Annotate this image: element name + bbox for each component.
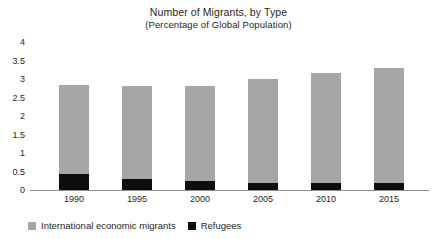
- legend-label: Refugees: [201, 220, 242, 231]
- chart-subtitle: (Percentage of Global Population): [0, 19, 437, 31]
- bar-segment-economic-migrants: [311, 73, 341, 182]
- bar-segment-economic-migrants: [59, 85, 89, 175]
- bar-stack: [374, 68, 404, 190]
- x-tick-label: 1990: [44, 194, 104, 204]
- legend-swatch-refugees-icon: [188, 222, 196, 230]
- legend-label: International economic migrants: [41, 220, 176, 231]
- y-tick-label: 2.5: [0, 93, 25, 103]
- x-tick-label: 2010: [296, 194, 356, 204]
- legend-swatch-economic-icon: [28, 222, 36, 230]
- bar-segment-refugees: [185, 181, 215, 190]
- bar-stack: [248, 79, 278, 190]
- bar-segment-refugees: [59, 174, 89, 190]
- y-tick-label: 0.5: [0, 167, 25, 177]
- bar-segment-economic-migrants: [122, 86, 152, 179]
- bar-stack: [122, 86, 152, 190]
- y-tick-label: 1: [0, 148, 25, 158]
- migrants-bar-chart: Number of Migrants, by Type (Percentage …: [0, 0, 437, 239]
- legend-item: Refugees: [188, 220, 242, 231]
- bar-series-layer: [30, 42, 430, 190]
- bar-segment-economic-migrants: [248, 79, 278, 183]
- bar-stack: [311, 73, 341, 190]
- y-tick-label: 3: [0, 74, 25, 84]
- chart-legend: International economic migrantsRefugees: [28, 220, 241, 231]
- legend-item: International economic migrants: [28, 220, 176, 231]
- y-tick-label: 0: [0, 185, 25, 195]
- y-tick-label: 1.5: [0, 130, 25, 140]
- x-axis-line: [30, 190, 429, 191]
- x-tick-label: 1995: [107, 194, 167, 204]
- y-tick-label: 3.5: [0, 56, 25, 66]
- chart-title: Number of Migrants, by Type: [0, 6, 437, 19]
- bar-stack: [185, 86, 215, 190]
- x-tick-label: 2005: [233, 194, 293, 204]
- x-tick-label: 2000: [170, 194, 230, 204]
- plot-area: 00.511.522.533.54 1990199520002005201020…: [30, 42, 430, 190]
- bar-segment-economic-migrants: [374, 68, 404, 183]
- x-tick-label: 2015: [359, 194, 419, 204]
- bar-segment-refugees: [248, 183, 278, 190]
- chart-title-block: Number of Migrants, by Type (Percentage …: [0, 6, 437, 30]
- y-tick-label: 2: [0, 111, 25, 121]
- bar-segment-refugees: [311, 183, 341, 190]
- bar-segment-economic-migrants: [185, 86, 215, 180]
- bar-segment-refugees: [122, 179, 152, 190]
- bar-segment-refugees: [374, 183, 404, 190]
- bar-stack: [59, 85, 89, 190]
- y-tick-label: 4: [0, 37, 25, 47]
